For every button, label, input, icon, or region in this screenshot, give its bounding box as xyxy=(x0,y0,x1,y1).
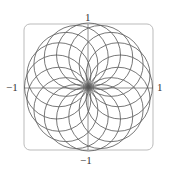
x-max-label: 1 xyxy=(157,82,163,93)
y-max-label: 1 xyxy=(85,12,91,23)
rose-curves xyxy=(25,23,153,151)
polar-rose-plot xyxy=(0,0,169,172)
rose-circle xyxy=(86,67,150,131)
y-min-label: −1 xyxy=(80,155,92,166)
x-min-label: −1 xyxy=(6,82,18,93)
